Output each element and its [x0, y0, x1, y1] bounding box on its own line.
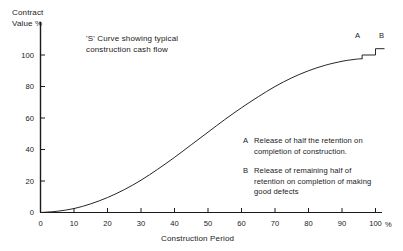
x-tick-label-90: 90: [338, 219, 346, 228]
notes-legend: A Release of half the retention on compl…: [243, 136, 403, 207]
x-tick-label-10: 10: [70, 219, 78, 228]
x-tick-label-70: 70: [271, 219, 279, 228]
y-tick-label-0: 0: [30, 208, 34, 217]
note-b: B Release of remaining half of retention…: [243, 166, 403, 198]
x-tick-label-0: 0: [38, 219, 42, 228]
y-axis-tick-labels: 0 20 40 60 80 100: [21, 51, 34, 218]
x-tick-label-30: 30: [137, 219, 145, 228]
note-a-key: A: [243, 136, 248, 147]
y-tick-label-40: 40: [26, 145, 34, 154]
x-tick-label-20: 20: [103, 219, 111, 228]
x-tick-label-100: 100: [369, 219, 382, 228]
note-b-key: B: [243, 166, 248, 177]
y-tick-label-60: 60: [26, 114, 34, 123]
y-tick-label-20: 20: [26, 177, 34, 186]
note-b-text: Release of remaining half of retention o…: [254, 166, 403, 198]
x-axis-title: Construction Period: [161, 234, 234, 243]
curve-marker-label-b: B: [379, 31, 384, 40]
y-tick-label-100: 100: [21, 51, 34, 60]
x-tick-label-80: 80: [304, 219, 312, 228]
note-a: A Release of half the retention on compl…: [243, 136, 403, 157]
x-axis-unit-label: %: [385, 220, 392, 229]
y-tick-label-80: 80: [26, 82, 34, 91]
x-tick-label-50: 50: [204, 219, 212, 228]
curve-marker-label-a: A: [355, 31, 360, 40]
x-tick-label-60: 60: [237, 219, 245, 228]
retention-release-step-a: [362, 55, 375, 59]
x-tick-label-40: 40: [170, 219, 178, 228]
x-axis-tick-labels: 0 10 20 30 40 50 60 70 80 90 100: [38, 219, 381, 228]
plot-area: 0 20 40 60 80 100 0 10 20 30 40: [0, 0, 403, 251]
retention-release-step-b: [376, 49, 385, 55]
note-a-text: Release of half the retention on complet…: [254, 136, 403, 157]
chart-figure: Contract Value % 'S' Curve showing typic…: [0, 0, 403, 251]
x-axis-ticks: [41, 208, 376, 213]
